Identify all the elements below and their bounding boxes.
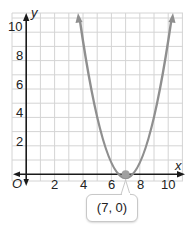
- x-axis: [13, 171, 185, 177]
- y-tick-10: 10: [8, 20, 22, 33]
- x-tick-2: 2: [51, 178, 58, 191]
- callout-pointer-joint: [122, 193, 130, 196]
- origin-label: O: [12, 177, 22, 190]
- y-axis-label: y: [31, 6, 38, 19]
- vertex-point: [122, 170, 130, 178]
- x-axis-label: x: [175, 159, 182, 172]
- y-tick-4: 4: [16, 106, 23, 119]
- x-tick-4: 4: [80, 178, 87, 191]
- vertex-callout: (7, 0): [86, 194, 138, 222]
- x-tick-10: 10: [161, 178, 175, 191]
- y-tick-6: 6: [16, 78, 23, 91]
- y-tick-8: 8: [16, 49, 23, 62]
- y-tick-2: 2: [16, 135, 23, 148]
- vertex-callout-label: (7, 0): [97, 200, 127, 215]
- x-tick-6: 6: [108, 178, 115, 191]
- x-tick-8: 8: [137, 178, 144, 191]
